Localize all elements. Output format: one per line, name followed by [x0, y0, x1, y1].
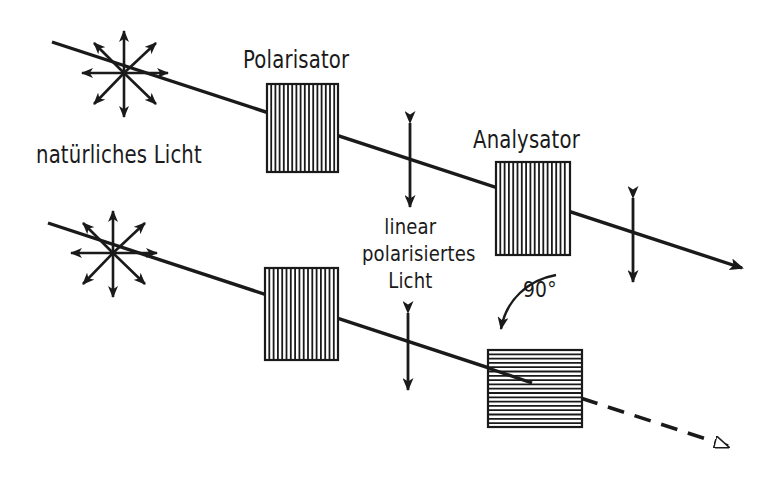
linear-polarized-line-3: Licht — [362, 268, 459, 293]
polarizer-label: Polarisator — [243, 46, 349, 74]
analyzer-label: Analysator — [473, 126, 580, 154]
top-unpolarized-light-star — [82, 31, 168, 117]
analyzer-bottom-rotated[interactable] — [488, 350, 582, 427]
linear-polarized-line-1: linear — [362, 214, 459, 239]
rotation-angle-label: 90° — [523, 277, 557, 302]
natural-light-label: natürliches Licht — [36, 141, 202, 169]
diagram-canvas: Polarisator Analysator natürliches Licht… — [0, 0, 783, 492]
bottom-unpolarized-light-star — [71, 211, 157, 297]
analyzer-top[interactable] — [496, 162, 570, 255]
polarizer-bottom[interactable] — [265, 268, 338, 360]
linear-polarized-line-2: polarisiertes — [362, 241, 459, 266]
polarizer-top[interactable] — [267, 84, 338, 172]
